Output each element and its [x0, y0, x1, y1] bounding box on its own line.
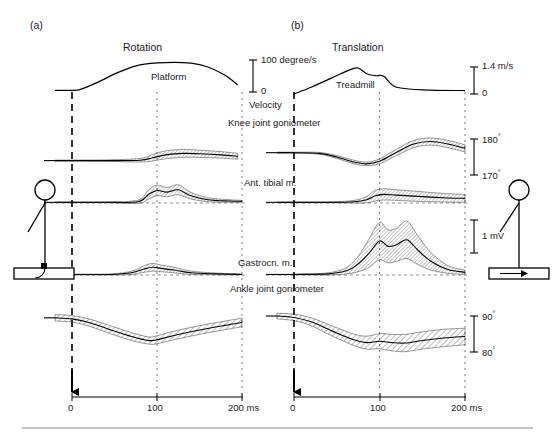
scalebar-translation-velocity — [470, 67, 478, 94]
scale-label-translation-velocity-bottom: 0 — [482, 88, 487, 98]
tick-label-a-200: 200 ms — [228, 403, 259, 413]
scale-label-ankle-top: 90° — [482, 310, 495, 322]
scalebar-rotation-velocity — [249, 60, 257, 92]
stimulus-label-platform: Platform — [151, 72, 186, 82]
tick-label-b-100: 100 — [370, 403, 386, 413]
scale-label-knee-bottom: 170° — [482, 169, 501, 181]
scalebar-ankle-angle — [470, 316, 478, 352]
scale-label-knee-top: 180° — [482, 133, 501, 145]
tick-label-a-100: 100 — [147, 403, 163, 413]
condition-title-translation: Translation — [332, 42, 384, 53]
time-axis-panel-b — [294, 370, 466, 401]
figure-svg — [0, 0, 555, 437]
scale-label-ankle-bottom: 80° — [482, 346, 495, 358]
trace-label-ant-tibial: Ant. tibial m. — [244, 178, 296, 188]
figure-container: (a) (b) Rotation Translation Platform Tr… — [0, 0, 555, 437]
scale-label-rotation-velocity-top: 100 degree/s — [261, 55, 316, 65]
panel-letter-b: (b) — [291, 20, 304, 31]
scalebar-knee-angle — [470, 139, 478, 175]
trace-label-gastrocnemius: Gastrocn. m. — [238, 258, 292, 268]
time-axis-panel-a — [72, 370, 243, 401]
trace-label-ankle: Ankle joint goniometer — [230, 284, 324, 294]
tick-label-b-200: 200 ms — [451, 403, 482, 413]
scale-label-rotation-velocity-bottom: 0 — [261, 86, 266, 96]
trace-label-velocity: Velocity — [249, 100, 282, 110]
tick-label-b-0: 0 — [290, 403, 295, 413]
scalebar-emg — [470, 220, 478, 253]
condition-title-rotation: Rotation — [123, 42, 162, 53]
tick-label-a-0: 0 — [68, 403, 73, 413]
stimulus-label-treadmill: Treadmill — [336, 80, 375, 90]
stick-figure-rotation-icon — [14, 180, 74, 279]
panel-letter-a: (a) — [30, 20, 43, 31]
trace-label-knee: Knee joint goniometer — [228, 118, 320, 128]
scale-label-translation-velocity-top: 1.4 m/s — [482, 61, 513, 71]
scale-label-emg: 1 mV — [482, 231, 504, 241]
